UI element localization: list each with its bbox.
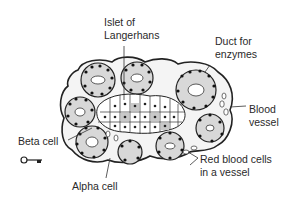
key-icon — [21, 157, 42, 163]
label-beta-cell: Beta cell — [18, 135, 58, 148]
label-blood-vessel: Blood vessel — [249, 103, 279, 129]
label-duct-for-enzymes: Duct for enzymes — [215, 35, 257, 61]
label-alpha-cell: Alpha cell — [72, 180, 118, 193]
label-islet-of-langerhans: Islet of Langerhans — [104, 16, 159, 42]
label-red-blood-cells: Red blood cells in a vessel — [200, 153, 272, 179]
